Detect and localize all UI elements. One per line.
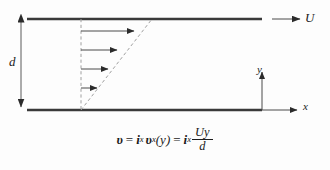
coordinate-axes (262, 72, 297, 110)
equation-fraction-denominator: d (196, 140, 208, 153)
equation-equals-2: = (170, 133, 183, 146)
equation-unit-vector-2-subscript: x (187, 135, 191, 144)
profile-envelope-dashed (81, 19, 152, 110)
equation-row: υ = ix υx(y) = ix Uy d (116, 126, 213, 153)
velocity-equation: υ = ix υx(y) = ix Uy d (0, 126, 330, 153)
axis-label-x: x (303, 101, 308, 112)
equation-unit-vector-1-subscript: x (140, 135, 144, 144)
axis-label-y: y (257, 64, 262, 75)
equation-fraction: Uy d (192, 126, 213, 153)
equation-equals-1: = (123, 133, 136, 146)
couette-flow-figure: d U y x υ = ix υx(y) = ix Uy d (0, 0, 330, 170)
velocity-profile-arrows (81, 31, 134, 88)
gap-label-d: d (9, 55, 16, 68)
plate-velocity-label-U: U (305, 11, 314, 24)
equation-fraction-numerator: Uy (192, 126, 213, 139)
equation-argument: (y) (156, 133, 170, 146)
